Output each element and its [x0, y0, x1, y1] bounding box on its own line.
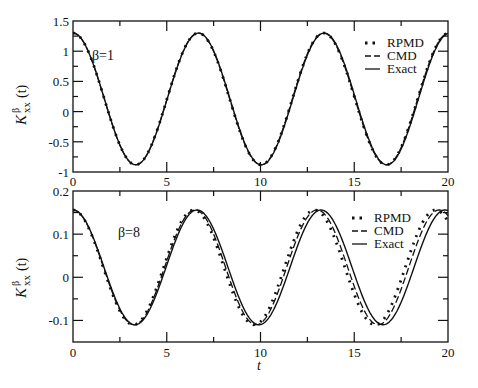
x-tick-label: 0	[70, 174, 77, 189]
y-tick-label: 0	[63, 105, 70, 120]
x-tick-label: 5	[164, 345, 171, 360]
y-tick-label: 1	[63, 44, 70, 59]
x-tick-label: 10	[254, 174, 267, 189]
figure: 05101520-1-0.500.511.5 β=1 RPMD CMD Exac…	[0, 0, 478, 388]
legend-exact-label: Exact	[374, 236, 404, 251]
top-ylabel: K β xx (t)	[10, 84, 32, 126]
top-panel: 05101520-1-0.500.511.5 β=1 RPMD CMD Exac…	[10, 14, 455, 189]
x-tick-label: 15	[348, 345, 361, 360]
y-tick-label: -0.1	[48, 313, 69, 328]
ylabel-arg: (t)	[14, 84, 30, 98]
y-tick-label: -1	[58, 165, 69, 180]
top-legend: RPMD CMD Exact	[365, 35, 424, 76]
bottom-ylabel: K β xx (t)	[10, 257, 32, 299]
bottom-panel: 05101520-0.100.10.2 β=8 RPMD CMD Exact K…	[10, 184, 455, 373]
y-tick-label: 1.5	[53, 14, 69, 29]
ylabel-arg: (t)	[14, 257, 30, 271]
x-tick-label: 15	[348, 174, 361, 189]
ylabel-sub: xx	[20, 275, 32, 287]
y-tick-label: 0.2	[53, 184, 69, 199]
x-tick-label: 0	[70, 345, 77, 360]
bottom-annotation-beta: β=8	[118, 225, 140, 240]
x-tick-label: 20	[442, 345, 455, 360]
bottom-legend: RPMD CMD Exact	[352, 210, 411, 251]
xlabel: t	[257, 358, 262, 373]
y-tick-label: -0.5	[48, 135, 69, 150]
y-tick-label: 0	[63, 270, 70, 285]
y-tick-label: 0.1	[53, 227, 69, 242]
ylabel-sub: xx	[20, 102, 32, 114]
ylabel-k: K	[13, 287, 29, 299]
x-tick-label: 20	[442, 174, 455, 189]
legend-exact-label: Exact	[387, 61, 417, 76]
x-tick-label: 5	[164, 174, 171, 189]
ylabel-k: K	[13, 114, 29, 126]
top-annotation-beta: β=1	[92, 48, 114, 63]
y-tick-label: 0.5	[53, 74, 69, 89]
